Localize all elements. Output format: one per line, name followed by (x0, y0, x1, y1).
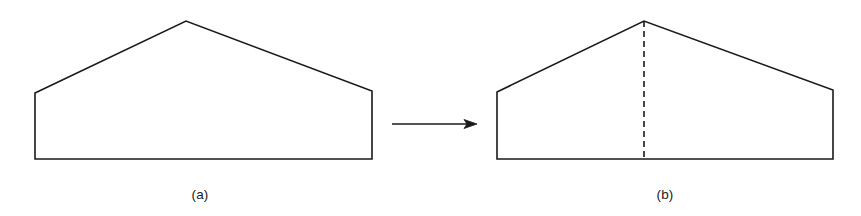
caption-panel-a: (a) (191, 187, 208, 202)
polygon-panel-a (35, 21, 372, 159)
polygon-panel-b (497, 21, 833, 159)
caption-panel-b: (b) (656, 187, 673, 202)
figure-canvas: (a) (b) (0, 0, 861, 216)
figure-illustration (0, 0, 861, 216)
